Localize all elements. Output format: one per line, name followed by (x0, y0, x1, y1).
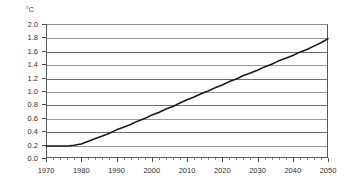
temperature-projection-chart: °C 0.00.20.40.60.81.01.21.41.61.82.0 197… (0, 0, 346, 194)
x-axis-minor-tick (180, 158, 181, 160)
x-axis-tick (258, 158, 259, 162)
x-axis-tick-label: 2030 (249, 166, 266, 175)
x-axis-minor-tick (53, 158, 54, 160)
x-axis-minor-tick (201, 158, 202, 160)
x-axis-tick (46, 158, 47, 162)
x-axis-minor-tick (243, 158, 244, 160)
x-axis-tick (152, 158, 153, 162)
x-axis-minor-tick (159, 158, 160, 160)
x-axis-minor-tick (286, 158, 287, 160)
x-axis-minor-tick (229, 158, 230, 160)
x-axis-minor-tick (215, 158, 216, 160)
x-axis-minor-tick (95, 158, 96, 160)
x-axis-minor-tick (321, 158, 322, 160)
x-axis-minor-tick (265, 158, 266, 160)
x-axis-minor-tick (60, 158, 61, 160)
x-axis-minor-tick (300, 158, 301, 160)
x-axis-tick (328, 158, 329, 162)
x-axis-minor-tick (138, 158, 139, 160)
x-axis-minor-tick (109, 158, 110, 160)
x-axis-tick (293, 158, 294, 162)
x-axis-minor-tick (88, 158, 89, 160)
x-axis-minor-tick (131, 158, 132, 160)
x-axis-minor-tick (166, 158, 167, 160)
x-axis-tick-label: 1980 (73, 166, 90, 175)
x-axis-minor-tick (67, 158, 68, 160)
x-axis-minor-tick (307, 158, 308, 160)
x-axis-tick (222, 158, 223, 162)
x-axis-tick-label: 2000 (143, 166, 160, 175)
x-axis-minor-tick (250, 158, 251, 160)
x-axis-minor-tick (194, 158, 195, 160)
x-axis-minor-tick (124, 158, 125, 160)
x-axis-tick-label: 2050 (320, 166, 337, 175)
x-axis-tick-label: 2020 (214, 166, 231, 175)
x-axis-tick-label: 2010 (179, 166, 196, 175)
x-axis-minor-tick (236, 158, 237, 160)
x-axis-minor-tick (145, 158, 146, 160)
x-axis-minor-tick (272, 158, 273, 160)
x-axis-minor-tick (314, 158, 315, 160)
x-axis-minor-tick (74, 158, 75, 160)
x-axis-tick (81, 158, 82, 162)
x-axis-minor-tick (279, 158, 280, 160)
x-axis-tick-label: 1970 (38, 166, 55, 175)
x-axis-minor-tick (102, 158, 103, 160)
x-axis-minor-tick (173, 158, 174, 160)
x-axis-minor-tick (208, 158, 209, 160)
x-axis-tick (117, 158, 118, 162)
x-axis: 197019801990200020102020203020402050 (0, 0, 346, 194)
x-axis-tick-label: 1990 (108, 166, 125, 175)
x-axis-tick-label: 2040 (284, 166, 301, 175)
x-axis-tick (187, 158, 188, 162)
